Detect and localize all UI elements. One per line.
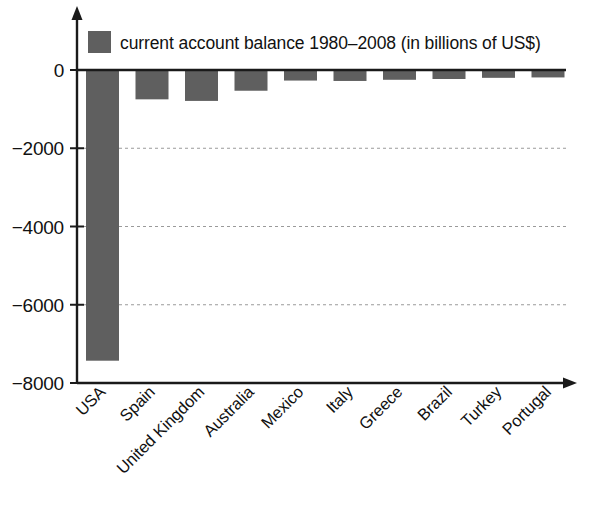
bar bbox=[334, 70, 367, 81]
bar bbox=[86, 70, 119, 361]
chart-canvas: 0−2000−4000−6000−8000 current account ba… bbox=[0, 0, 589, 518]
y-tick-label: −4000 bbox=[12, 217, 64, 238]
x-category-label: Italy bbox=[322, 382, 356, 416]
y-axis-arrowhead bbox=[72, 6, 83, 20]
gridlines bbox=[77, 148, 566, 305]
x-category-label: USA bbox=[72, 382, 109, 419]
bar bbox=[284, 70, 317, 81]
x-category-label: Brazil bbox=[414, 382, 455, 423]
bar bbox=[136, 70, 169, 99]
x-category-label: Turkey bbox=[457, 382, 505, 430]
x-category-label: Portugal bbox=[499, 382, 555, 438]
x-category-label: Australia bbox=[200, 382, 258, 440]
bar-chart: 0−2000−4000−6000−8000 current account ba… bbox=[0, 0, 589, 518]
bar bbox=[383, 70, 416, 80]
y-tick-label: 0 bbox=[54, 60, 64, 81]
legend-label: current account balance 1980–2008 (in bi… bbox=[120, 33, 541, 53]
legend: current account balance 1980–2008 (in bi… bbox=[88, 31, 541, 53]
legend-swatch bbox=[88, 31, 111, 53]
bar bbox=[235, 70, 268, 91]
y-axis-ticks: 0−2000−4000−6000−8000 bbox=[12, 60, 84, 394]
x-axis-category-labels: USASpainUnited KingdomAustraliaMexicoIta… bbox=[72, 382, 554, 477]
y-tick-label: −2000 bbox=[12, 138, 64, 159]
x-category-label: Mexico bbox=[257, 382, 306, 431]
bar bbox=[185, 70, 218, 101]
x-category-label: Greece bbox=[355, 382, 406, 433]
bar-series bbox=[86, 70, 565, 361]
bar bbox=[433, 70, 466, 79]
x-category-label: Spain bbox=[116, 382, 158, 424]
y-tick-label: −8000 bbox=[12, 373, 64, 394]
x-category-label: United Kingdom bbox=[113, 382, 208, 477]
y-tick-label: −6000 bbox=[12, 295, 64, 316]
x-axis-arrowhead bbox=[563, 378, 577, 389]
